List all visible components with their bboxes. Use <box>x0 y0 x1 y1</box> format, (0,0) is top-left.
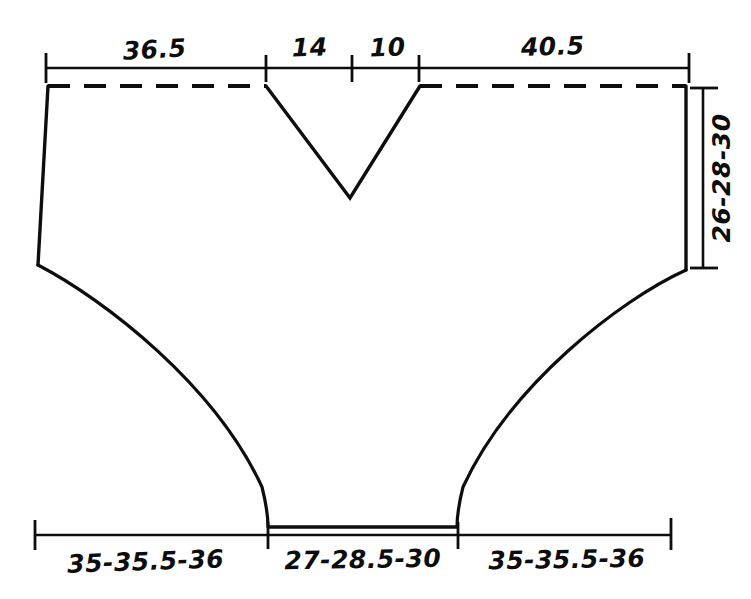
bottom-dimension-label-3: 35-35.5-36 <box>488 544 645 576</box>
top-dimension-label-1: 36.5 <box>122 33 187 65</box>
top-dimension-label-4: 40.5 <box>519 31 585 62</box>
top-dimension-labels: 36.5 14 10 40.5 <box>122 31 585 66</box>
side-dimension-label: 26-28-30 <box>707 113 736 242</box>
top-dimension-label-2: 14 <box>291 32 328 62</box>
left-leg-curve <box>38 265 268 527</box>
schematic-drawing: 36.5 14 10 40.5 26-28-3 <box>0 0 751 599</box>
pattern-schematic: 36.5 14 10 40.5 26-28-3 <box>0 0 751 599</box>
bottom-dimension-label-2: 27-28.5-30 <box>284 544 441 576</box>
top-dimension-label-3: 10 <box>369 32 406 62</box>
left-side-seam <box>38 86 48 265</box>
neckline-v-path <box>266 86 420 198</box>
neckline-v-shape <box>266 86 420 198</box>
bottom-dimension-label-1: 35-35.5-36 <box>67 544 225 578</box>
right-leg-curve <box>457 270 686 527</box>
bottom-dimension-labels: 35-35.5-36 27-28.5-30 35-35.5-36 <box>67 544 646 579</box>
